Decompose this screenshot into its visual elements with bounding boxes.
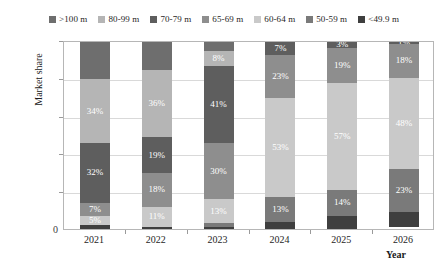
- bar-segment[interactable]: 5%: [80, 216, 110, 225]
- legend-item[interactable]: 80-99 m: [98, 14, 139, 24]
- bar-column[interactable]: 36%19%18%11%: [142, 42, 172, 229]
- bar-segment-label: 53%: [272, 143, 289, 152]
- chart-root: >100 m80-99 m70-79 m65-69 m60-64 m50-59 …: [0, 0, 448, 274]
- bar-segment-label: 23%: [396, 186, 413, 195]
- x-tick-label: 2025: [311, 234, 371, 245]
- bar-segment[interactable]: 13%: [265, 197, 295, 221]
- bar-segment[interactable]: 23%: [389, 169, 419, 212]
- bar-segment[interactable]: 23%: [265, 55, 295, 98]
- x-tick-label: 2024: [249, 234, 309, 245]
- legend-item-label: 65-69 m: [212, 14, 243, 24]
- plot-area: 34%32%7%5%36%19%18%11%8%41%30%13%7%23%53…: [63, 41, 434, 230]
- legend-item-label: <49.9 m: [368, 14, 399, 24]
- bar-stack: 7%23%53%13%: [265, 42, 295, 229]
- bar-segment[interactable]: 18%: [142, 173, 172, 207]
- bar-segment-label: 34%: [87, 107, 104, 116]
- bar-segment[interactable]: 48%: [389, 78, 419, 169]
- legend-swatch-icon: [358, 16, 365, 23]
- bar-stack: 1%18%48%23%: [389, 42, 419, 229]
- bar-segment[interactable]: 41%: [204, 66, 234, 143]
- legend-item-label: 50-59 m: [316, 14, 347, 24]
- bar-segment[interactable]: [204, 227, 234, 229]
- legend-item[interactable]: 70-79 m: [150, 14, 191, 24]
- bar-segment[interactable]: [142, 42, 172, 70]
- bar-segment[interactable]: 32%: [80, 143, 110, 203]
- legend-swatch-icon: [150, 16, 157, 23]
- legend-item[interactable]: >100 m: [49, 14, 87, 24]
- bar-segment[interactable]: [204, 42, 234, 51]
- bar-segment-label: 23%: [272, 72, 289, 81]
- bar-stack: 34%32%7%5%: [80, 42, 110, 229]
- legend-item-label: 70-79 m: [160, 14, 191, 24]
- legend-item[interactable]: 60-64 m: [254, 14, 295, 24]
- bar-segment[interactable]: 57%: [327, 83, 357, 190]
- legend-swatch-icon: [49, 16, 56, 23]
- bar-group: 34%32%7%5%36%19%18%11%8%41%30%13%7%23%53…: [64, 42, 433, 229]
- y-axis-title: Market share: [33, 20, 44, 140]
- x-tick-label: 2023: [188, 234, 248, 245]
- bar-segment[interactable]: 36%: [142, 70, 172, 137]
- bar-segment-label: 57%: [334, 132, 351, 141]
- legend-swatch-icon: [254, 16, 261, 23]
- bar-stack: 3%19%57%14%: [327, 42, 357, 229]
- bar-segment[interactable]: 30%: [204, 143, 234, 199]
- bar-segment-label: 13%: [272, 205, 289, 214]
- bar-segment-label: 41%: [210, 100, 227, 109]
- bar-segment[interactable]: 19%: [142, 137, 172, 173]
- bar-segment-label: 36%: [149, 99, 166, 108]
- bar-segment[interactable]: [265, 222, 295, 229]
- bar-segment-label: 13%: [210, 207, 227, 216]
- bar-segment-label: 7%: [274, 44, 286, 53]
- bar-segment[interactable]: 11%: [142, 207, 172, 228]
- bar-segment[interactable]: [80, 42, 110, 79]
- bar-segment-label: 11%: [149, 212, 165, 221]
- x-tick-mark: [372, 230, 373, 234]
- chart-legend: >100 m80-99 m70-79 m65-69 m60-64 m50-59 …: [0, 14, 448, 24]
- bar-segment[interactable]: 53%: [265, 98, 295, 197]
- bar-stack: 8%41%30%13%: [204, 42, 234, 229]
- bar-segment-label: 19%: [149, 151, 166, 160]
- bar-segment[interactable]: [80, 225, 110, 229]
- bar-segment[interactable]: 19%: [327, 48, 357, 84]
- bar-segment[interactable]: 7%: [265, 42, 295, 55]
- bar-segment[interactable]: 34%: [80, 79, 110, 143]
- legend-item-label: >100 m: [59, 14, 87, 24]
- legend-item[interactable]: 65-69 m: [202, 14, 243, 24]
- y-tick-label-zero: 0: [40, 224, 58, 235]
- bar-segment[interactable]: 7%: [80, 203, 110, 216]
- bar-column[interactable]: 3%19%57%14%: [327, 42, 357, 229]
- bar-segment[interactable]: 14%: [327, 190, 357, 216]
- bar-column[interactable]: 34%32%7%5%: [80, 42, 110, 229]
- x-tick-mark: [187, 230, 188, 234]
- legend-swatch-icon: [98, 16, 105, 23]
- x-tick-label: 2022: [126, 234, 186, 245]
- bar-segment[interactable]: 8%: [204, 51, 234, 66]
- bar-segment-label: 48%: [396, 119, 413, 128]
- legend-item-label: 60-64 m: [264, 14, 295, 24]
- legend-item[interactable]: <49.9 m: [358, 14, 399, 24]
- bar-segment[interactable]: 13%: [204, 199, 234, 223]
- bar-segment-label: 18%: [149, 185, 166, 194]
- bar-segment[interactable]: 18%: [389, 44, 419, 78]
- bar-segment-label: 8%: [213, 54, 225, 63]
- bar-segment-label: 19%: [334, 61, 351, 70]
- bar-column[interactable]: 8%41%30%13%: [204, 42, 234, 229]
- legend-item-label: 80-99 m: [108, 14, 139, 24]
- x-tick-label: 2021: [64, 234, 124, 245]
- bar-segment[interactable]: [142, 227, 172, 229]
- legend-item[interactable]: 50-59 m: [306, 14, 347, 24]
- bar-segment-label: 18%: [396, 56, 413, 65]
- bar-segment-label: 5%: [89, 216, 101, 225]
- bar-segment-label: 30%: [210, 167, 227, 176]
- bar-segment[interactable]: [389, 212, 419, 227]
- bar-column[interactable]: 7%23%53%13%: [265, 42, 295, 229]
- x-tick-label: 2026: [373, 234, 433, 245]
- bar-segment[interactable]: [327, 216, 357, 229]
- x-tick-mark: [125, 230, 126, 234]
- bar-segment-label: 14%: [334, 198, 351, 207]
- legend-swatch-icon: [306, 16, 313, 23]
- bar-column[interactable]: 1%18%48%23%: [389, 42, 419, 229]
- legend-swatch-icon: [202, 16, 209, 23]
- x-tick-mark: [249, 230, 250, 234]
- bar-stack: 36%19%18%11%: [142, 42, 172, 229]
